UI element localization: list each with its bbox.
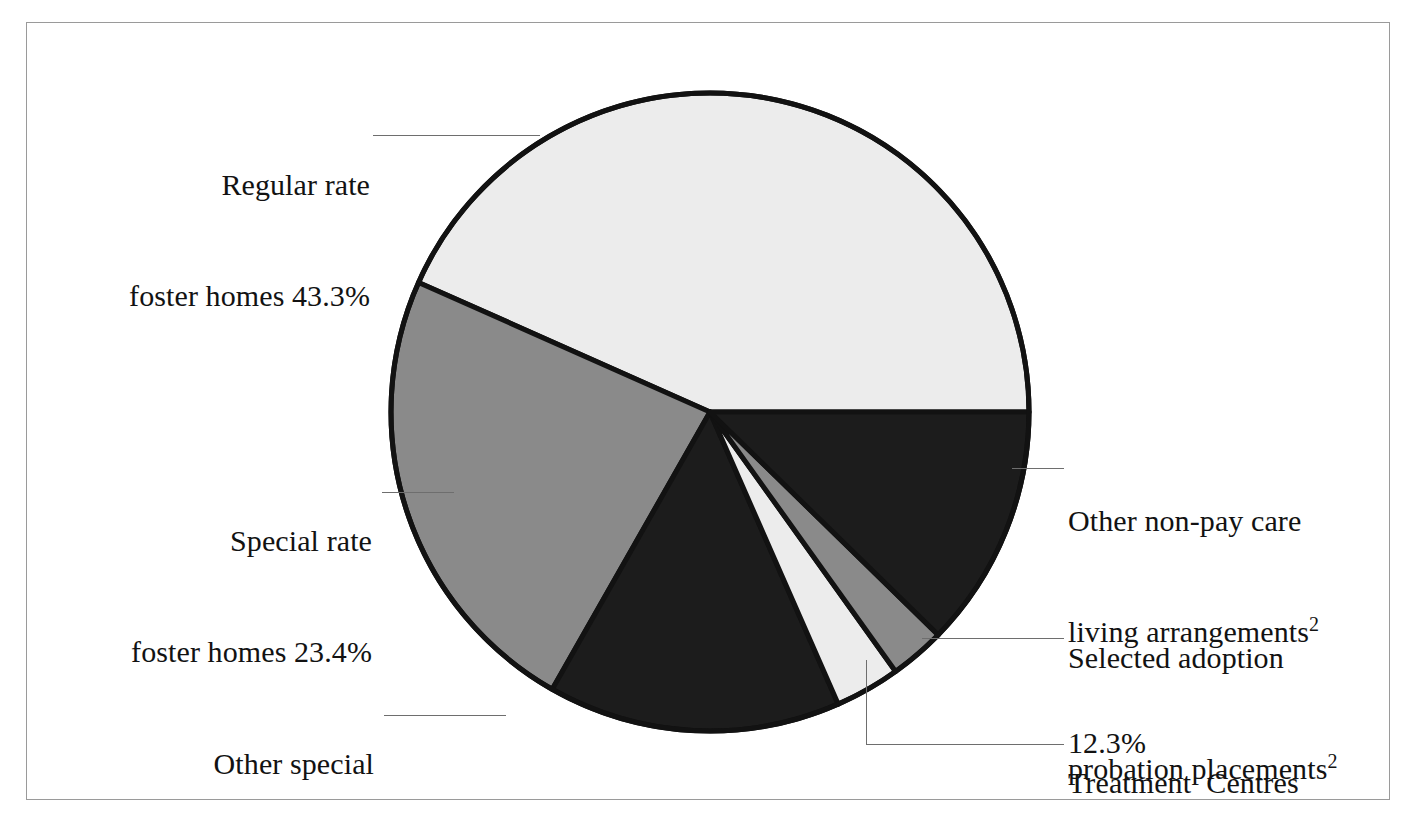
label-special-rate-line2: foster homes 23.4% [60,633,372,670]
label-treatment-centres-manitoba: Treatment Centres in Manitoba2 3.3% [1068,690,1398,823]
label-special-rate-line1: Special rate [60,522,372,559]
label-selected-adoption-line1: Selected adoption [1068,639,1406,676]
label-regular-rate-foster-homes: Regular rate foster homes 43.3% [70,92,370,388]
label-regular-rate-line1: Regular rate [70,166,370,203]
label-other-special-rate-line1: Other special [28,745,374,782]
leader-line-treatment-centres-horizontal [866,744,1064,745]
label-other-special-rate-placements: Other special rate placements 14.8% [28,671,374,823]
leader-line-other-special-rate [384,715,506,716]
label-treatment-centres-line1: Treatment Centres [1068,764,1398,801]
leader-line-regular-rate [373,135,540,136]
pie-chart-figure: Regular rate foster homes 43.3% Special … [0,0,1413,823]
label-other-non-pay-care-line1: Other non-pay care [1068,502,1398,539]
leader-line-other-non-pay-care [1012,468,1064,469]
label-regular-rate-line2: foster homes 43.3% [70,277,370,314]
leader-line-selected-adoption [922,638,1064,639]
pie-slices-group [391,93,1029,731]
leader-line-special-rate [382,492,454,493]
leader-line-treatment-centres-vertical [866,660,867,744]
